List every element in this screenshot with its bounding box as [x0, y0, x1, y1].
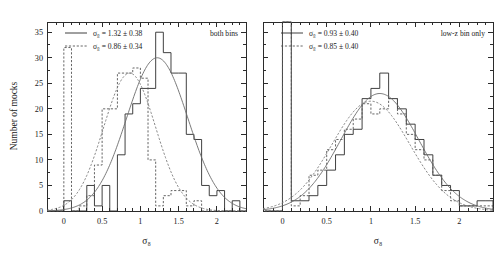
x-axis-title: σ₈	[142, 236, 150, 246]
x-tick-label: 0.5	[322, 217, 332, 226]
histogram-dashed	[49, 48, 246, 211]
solid-gaussian-fit	[47, 58, 246, 211]
histogram-solid	[265, 22, 493, 211]
legend-label-dashed: σ₈ = 0.86 ± 0.34	[93, 42, 143, 51]
x-tick-label: 2	[457, 217, 461, 226]
y-tick-label: 35	[35, 28, 43, 37]
x-tick-label: 0.5	[97, 217, 107, 226]
y-tick-label: 0	[39, 207, 43, 216]
x-tick-label: 2	[215, 217, 219, 226]
histogram-solid	[49, 32, 246, 211]
y-tick-label: 25	[35, 79, 43, 88]
y-tick-label: 30	[35, 54, 43, 63]
x-tick-label: 0	[62, 217, 66, 226]
x-tick-label: 1.5	[174, 217, 184, 226]
x-axis-title: σ₈	[374, 236, 382, 246]
x-tick-label: 0	[280, 217, 284, 226]
panel-label: both bins	[210, 29, 238, 38]
y-tick-label: 20	[35, 105, 43, 114]
y-tick-label: 15	[35, 130, 43, 139]
panel-right: 00.511.52σ₈low-z bin onlyσ₈ = 0.93 ± 0.4…	[263, 22, 493, 246]
panel-left: 00.511.5205101520253035σ₈both binsσ₈ = 1…	[35, 22, 246, 246]
panel-frame	[263, 22, 493, 211]
chart-svg: 00.511.5205101520253035σ₈both binsσ₈ = 1…	[0, 0, 501, 258]
y-tick-label: 5	[39, 181, 43, 190]
y-axis-title: Number of mocks	[9, 81, 19, 150]
panel-frame	[47, 22, 246, 211]
dashed-gaussian-fit	[263, 101, 493, 210]
x-tick-label: 1	[138, 217, 142, 226]
solid-gaussian-fit	[263, 94, 493, 210]
legend-label-dashed: σ₈ = 0.85 ± 0.40	[309, 42, 359, 51]
y-tick-label: 10	[35, 156, 43, 165]
x-tick-label: 1.5	[410, 217, 420, 226]
figure-container: 00.511.5205101520253035σ₈both binsσ₈ = 1…	[0, 0, 501, 258]
histogram-dashed	[265, 22, 493, 211]
x-tick-label: 1	[369, 217, 373, 226]
legend-label-solid: σ₈ = 1.32 ± 0.38	[93, 29, 143, 38]
legend-label-solid: σ₈ = 0.93 ± 0.40	[309, 29, 359, 38]
dashed-gaussian-fit	[47, 73, 246, 211]
panel-label: low-z bin only	[441, 29, 485, 38]
